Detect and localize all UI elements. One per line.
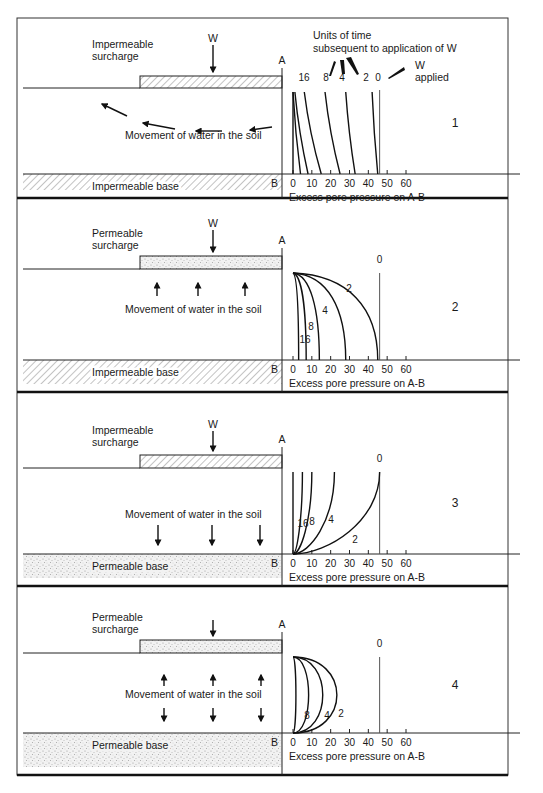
curve-label-16: 16 (297, 518, 309, 529)
x-axis-label: Excess pore pressure on A-B (289, 191, 425, 203)
curve-label-0: 0 (375, 72, 381, 83)
curve-label-4: 4 (324, 710, 330, 721)
movement-label: Movement of water in the soil (125, 508, 262, 520)
curve-label-2: 2 (346, 283, 352, 294)
flow-arrow-icon (102, 104, 127, 116)
surcharge-label-line1: Permeable (92, 611, 143, 623)
base-label: Impermeable base (92, 180, 179, 192)
axis-label-b: B (271, 177, 278, 189)
curve-label-2: 2 (352, 534, 358, 545)
curve-t-16 (304, 92, 321, 174)
time-legend-line1: Units of time (313, 29, 372, 41)
curve-t-16 (293, 657, 296, 733)
x-tick-label: 40 (363, 178, 375, 189)
x-tick-label: 20 (325, 178, 337, 189)
curve-label-8: 8 (309, 516, 315, 527)
movement-label: Movement of water in the soil (125, 129, 262, 141)
x-tick-label: 50 (382, 558, 394, 569)
axis-label-a: A (278, 433, 285, 445)
surcharge-label-line2: surcharge (92, 623, 139, 635)
curve-label-16: 16 (299, 334, 311, 345)
panel-number: 3 (452, 496, 459, 510)
axis-label-a: A (278, 618, 285, 630)
impermeable-surcharge (140, 455, 282, 468)
curve-t-4 (293, 657, 323, 733)
curve-label-8: 8 (308, 321, 314, 332)
base-label: Permeable base (92, 739, 169, 751)
panel-3: ImpermeablesurchargeWPermeable baseAB010… (17, 418, 520, 586)
curve-t-4 (346, 92, 355, 174)
curve-t-32 (293, 273, 299, 360)
x-tick-label: 30 (344, 364, 356, 375)
panel-number: 1 (452, 116, 459, 130)
x-tick-label: 10 (306, 737, 318, 748)
x-tick-label: 60 (400, 558, 412, 569)
x-tick-label: 0 (290, 558, 296, 569)
panel-2: PermeablesurchargeWImpermeable baseAB010… (17, 217, 520, 392)
curve-t-8 (325, 92, 340, 174)
curve-label-0: 0 (377, 638, 383, 649)
curve-label-0: 0 (377, 453, 383, 464)
x-tick-label: 50 (382, 178, 394, 189)
time-legend-line2: subsequent to application of W (313, 42, 457, 54)
axis-label-a: A (278, 54, 285, 66)
consolidation-diagram: ImpermeablesurchargeWImpermeable baseAB0… (0, 0, 543, 793)
curve-label-4: 4 (322, 305, 328, 316)
x-tick-label: 40 (363, 558, 375, 569)
x-tick-label: 50 (382, 737, 394, 748)
curve-label-2: 2 (363, 72, 369, 83)
curve-label-16: 16 (298, 72, 310, 83)
curve-label-0: 0 (377, 254, 383, 265)
x-tick-label: 0 (290, 737, 296, 748)
x-tick-label: 0 (290, 364, 296, 375)
x-tick-label: 20 (325, 364, 337, 375)
base-label: Impermeable base (92, 366, 179, 378)
axis-label-b: B (271, 557, 278, 569)
curve-t-2 (293, 472, 380, 554)
curve-label-4: 4 (328, 514, 334, 525)
panel-number: 2 (452, 300, 459, 314)
permeable-surcharge (140, 256, 282, 269)
w-applied-line2: applied (415, 71, 449, 83)
x-axis-label: Excess pore pressure on A-B (289, 377, 425, 389)
load-label-w: W (208, 217, 218, 229)
axis-label-a: A (278, 234, 285, 246)
load-label-w: W (208, 418, 218, 430)
curve-label-8: 8 (323, 72, 329, 83)
curve-label-2: 2 (338, 708, 344, 719)
surcharge-label-line1: Permeable (92, 227, 143, 239)
x-tick-label: 40 (363, 364, 375, 375)
axis-label-b: B (271, 736, 278, 748)
legend-pointer-8 (329, 61, 336, 76)
impermeable-surcharge (140, 76, 282, 88)
load-label-w: W (208, 32, 218, 44)
curve-label-8: 8 (304, 710, 310, 721)
surcharge-label-line1: Impermeable (92, 424, 153, 436)
movement-label: Movement of water in the soil (125, 688, 262, 700)
curve-t-4 (293, 472, 334, 554)
x-tick-label: 40 (363, 737, 375, 748)
x-tick-label: 60 (400, 178, 412, 189)
x-tick-label: 10 (306, 178, 318, 189)
legend-pointer-w-applied (388, 67, 405, 79)
x-tick-label: 0 (290, 178, 296, 189)
x-tick-label: 30 (344, 558, 356, 569)
curve-t-2 (372, 92, 378, 174)
x-axis-label: Excess pore pressure on A-B (289, 750, 425, 762)
axis-label-b: B (271, 363, 278, 375)
x-tick-label: 10 (306, 364, 318, 375)
panel-number: 4 (452, 678, 459, 692)
curve-t-16 (293, 273, 306, 360)
outer-frame (17, 18, 508, 775)
legend-pointer-2 (346, 57, 359, 75)
surcharge-label-line2: surcharge (92, 50, 139, 62)
x-tick-label: 50 (382, 364, 394, 375)
panel-4: PermeablesurchargePermeable baseAB010203… (17, 611, 520, 775)
surcharge-label-line2: surcharge (92, 239, 139, 251)
permeable-surcharge (140, 640, 282, 653)
surcharge-label-line1: Impermeable (92, 38, 153, 50)
w-applied-line1: W (415, 59, 425, 71)
x-tick-label: 10 (306, 558, 318, 569)
movement-label: Movement of water in the soil (125, 303, 262, 315)
x-tick-label: 30 (344, 178, 356, 189)
